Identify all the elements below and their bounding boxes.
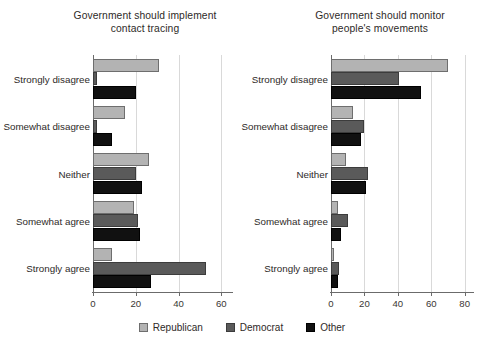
category-label-somewhat-agree: Somewhat agree xyxy=(254,215,328,226)
gridline xyxy=(465,55,466,292)
x-axis-line xyxy=(330,292,474,293)
bar-republican-strongly-disagree xyxy=(331,59,448,72)
chart-panel-contact-tracing: Government should implement contact trac… xyxy=(0,0,242,310)
legend-label-other: Other xyxy=(320,322,345,333)
category-label-neither: Neither xyxy=(296,168,328,179)
bar-republican-somewhat-agree xyxy=(93,201,134,214)
bar-republican-strongly-agree xyxy=(331,248,334,261)
x-axis-tick xyxy=(465,292,466,296)
chart-panel-monitor-movements: Government should monitor people's movem… xyxy=(242,0,484,310)
legend-item-republican: Republican xyxy=(139,322,203,333)
bar-other-neither xyxy=(93,181,142,194)
category-label-neither: Neither xyxy=(58,168,90,179)
category-label-strongly-disagree: Strongly disagree xyxy=(252,73,328,84)
x-axis-tick-label: 60 xyxy=(216,298,227,309)
legend-swatch-republican-icon xyxy=(139,323,148,332)
bar-democrat-somewhat-disagree xyxy=(331,120,364,133)
bar-republican-neither xyxy=(93,153,149,166)
category-label-somewhat-agree: Somewhat agree xyxy=(16,215,90,226)
x-axis-tick-label: 80 xyxy=(459,298,470,309)
x-axis-tick xyxy=(93,292,94,296)
bar-republican-strongly-disagree xyxy=(93,59,159,72)
bar-democrat-neither xyxy=(331,167,368,180)
bar-other-strongly-disagree xyxy=(93,86,136,99)
bar-other-somewhat-disagree xyxy=(93,133,112,146)
legend-swatch-other-icon xyxy=(306,323,315,332)
category-label-strongly-disagree: Strongly disagree xyxy=(14,73,90,84)
x-axis-tick-label: 0 xyxy=(90,298,95,309)
bar-republican-somewhat-disagree xyxy=(93,106,125,119)
legend-label-republican: Republican xyxy=(153,322,203,333)
gridline xyxy=(221,55,222,292)
x-axis-tick-label: 40 xyxy=(392,298,403,309)
bar-republican-somewhat-disagree xyxy=(331,106,353,119)
category-label-somewhat-disagree: Somewhat disagree xyxy=(3,121,90,132)
x-axis-tick-label: 40 xyxy=(173,298,184,309)
bar-republican-strongly-agree xyxy=(93,248,112,261)
bar-democrat-strongly-agree xyxy=(331,262,339,275)
bar-republican-neither xyxy=(331,153,346,166)
x-axis-tick-label: 20 xyxy=(359,298,370,309)
chart-legend: Republican Democrat Other xyxy=(0,318,484,336)
bar-democrat-strongly-disagree xyxy=(331,72,399,85)
bar-other-neither xyxy=(331,181,366,194)
chart-title-left: Government should implement contact trac… xyxy=(0,9,242,35)
bar-democrat-somewhat-disagree xyxy=(93,120,97,133)
category-label-strongly-agree: Strongly agree xyxy=(26,263,90,274)
bar-democrat-strongly-disagree xyxy=(93,72,97,85)
x-axis-tick xyxy=(398,292,399,296)
category-label-somewhat-disagree: Somewhat disagree xyxy=(241,121,328,132)
x-axis-tick xyxy=(364,292,365,296)
bar-other-strongly-disagree xyxy=(331,86,421,99)
x-axis-line xyxy=(92,292,233,293)
legend-label-democrat: Democrat xyxy=(240,322,283,333)
bar-democrat-strongly-agree xyxy=(93,262,206,275)
bar-other-strongly-agree xyxy=(331,275,338,288)
grouped-bar-chart-figure: Government should implement contact trac… xyxy=(0,0,484,348)
plot-area-right: 020406080 xyxy=(331,55,473,292)
x-axis-tick xyxy=(331,292,332,296)
x-axis-tick xyxy=(221,292,222,296)
gridline xyxy=(431,55,432,292)
plot-area-left: 0204060 xyxy=(93,55,232,292)
bar-democrat-somewhat-agree xyxy=(331,214,348,227)
bar-republican-somewhat-agree xyxy=(331,201,338,214)
bar-other-somewhat-agree xyxy=(93,228,140,241)
x-axis-tick xyxy=(179,292,180,296)
x-axis-tick-label: 0 xyxy=(328,298,333,309)
bar-democrat-neither xyxy=(93,167,136,180)
legend-item-democrat: Democrat xyxy=(226,322,283,333)
legend-item-other: Other xyxy=(306,322,345,333)
x-axis-tick-label: 20 xyxy=(130,298,141,309)
x-axis-tick xyxy=(136,292,137,296)
x-axis-tick xyxy=(431,292,432,296)
gridline xyxy=(179,55,180,292)
bar-democrat-somewhat-agree xyxy=(93,214,138,227)
bar-other-somewhat-disagree xyxy=(331,133,361,146)
bar-other-strongly-agree xyxy=(93,275,151,288)
category-label-strongly-agree: Strongly agree xyxy=(264,263,328,274)
chart-title-right: Government should monitor people's movem… xyxy=(242,9,484,35)
legend-swatch-democrat-icon xyxy=(226,323,235,332)
bar-other-somewhat-agree xyxy=(331,228,341,241)
gridline xyxy=(136,55,137,292)
x-axis-tick-label: 60 xyxy=(426,298,437,309)
